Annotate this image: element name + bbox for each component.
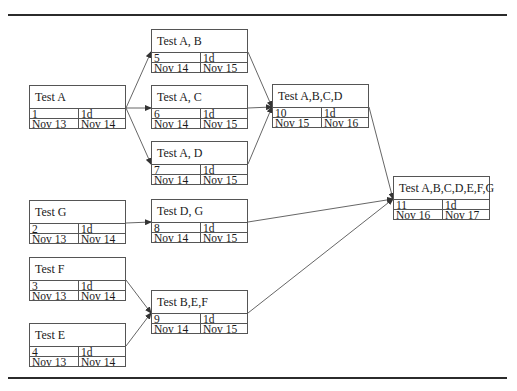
task-title: Test A, C [152,86,247,108]
task-title: Test F [30,258,125,280]
task-dates-row: Nov 13 Nov 14 [30,356,125,367]
task-node-8[interactable]: Test D, G 8 1d Nov 14 Nov 15 [151,199,248,243]
task-node-11[interactable]: Test A,B,C,D,E,F,G 11 1d Nov 16 Nov 17 [393,176,490,220]
task-dates-row: Nov 13 Nov 14 [30,290,125,301]
task-title: Test A, B [152,30,247,52]
arrow-n2-n8 [126,222,151,223]
task-start-date: Nov 14 [152,175,201,185]
task-start-date: Nov 13 [30,119,79,129]
arrow-n10-n11 [369,107,393,199]
arrow-n6-n10 [248,107,272,108]
task-finish-date: Nov 14 [79,357,127,367]
arrow-n8-n11 [248,199,393,222]
task-finish-date: Nov 14 [79,291,127,301]
task-dates-row: Nov 14 Nov 15 [152,174,247,185]
task-start-date: Nov 13 [30,357,79,367]
task-dates-row: Nov 14 Nov 15 [152,323,247,334]
task-dates-row: Nov 14 Nov 15 [152,232,247,243]
task-node-9[interactable]: Test B,E,F 9 1d Nov 14 Nov 15 [151,290,248,334]
task-node-7[interactable]: Test A, D 7 1d Nov 14 Nov 15 [151,141,248,185]
task-finish-date: Nov 14 [79,119,127,129]
arrow-n1-n7 [126,108,151,164]
task-node-1[interactable]: Test A 1 1d Nov 13 Nov 14 [29,85,126,129]
task-start-date: Nov 14 [152,63,201,73]
task-node-2[interactable]: Test G 2 1d Nov 13 Nov 14 [29,200,126,244]
task-dates-row: Nov 13 Nov 14 [30,118,125,129]
task-finish-date: Nov 15 [201,233,249,243]
arrow-n4-n9 [126,313,151,346]
task-title: Test D, G [152,200,247,222]
task-finish-date: Nov 14 [79,234,127,244]
task-title: Test A, D [152,142,247,164]
task-start-date: Nov 14 [152,119,201,129]
task-dates-row: Nov 14 Nov 15 [152,62,247,73]
task-node-10[interactable]: Test A,B,C,D 10 1d Nov 15 Nov 16 [272,84,369,128]
arrow-n1-n5 [126,52,151,108]
task-start-date: Nov 14 [152,233,201,243]
task-node-6[interactable]: Test A, C 6 1d Nov 14 Nov 15 [151,85,248,129]
task-title: Test G [30,201,125,223]
task-node-5[interactable]: Test A, B 5 1d Nov 14 Nov 15 [151,29,248,73]
task-start-date: Nov 14 [152,324,201,334]
task-title: Test A [30,86,125,108]
task-dates-row: Nov 16 Nov 17 [394,209,489,220]
task-finish-date: Nov 15 [201,175,249,185]
task-dates-row: Nov 15 Nov 16 [273,117,368,128]
task-title: Test B,E,F [152,291,247,313]
task-dates-row: Nov 13 Nov 14 [30,233,125,244]
task-finish-date: Nov 15 [201,63,249,73]
task-start-date: Nov 16 [394,210,443,220]
task-finish-date: Nov 16 [322,118,370,128]
task-title: Test A,B,C,D,E,F,G [394,177,489,199]
task-finish-date: Nov 15 [201,119,249,129]
arrow-n7-n10 [248,107,272,164]
task-title: Test A,B,C,D [273,85,368,107]
arrow-n9-n11 [248,199,393,313]
task-node-3[interactable]: Test F 3 1d Nov 13 Nov 14 [29,257,126,301]
task-title: Test E [30,324,125,346]
task-node-4[interactable]: Test E 4 1d Nov 13 Nov 14 [29,323,126,367]
task-finish-date: Nov 17 [443,210,491,220]
task-finish-date: Nov 15 [201,324,249,334]
task-start-date: Nov 15 [273,118,322,128]
task-start-date: Nov 13 [30,234,79,244]
arrow-n5-n10 [248,52,272,107]
arrow-n3-n9 [126,280,151,313]
task-dates-row: Nov 14 Nov 15 [152,118,247,129]
task-start-date: Nov 13 [30,291,79,301]
